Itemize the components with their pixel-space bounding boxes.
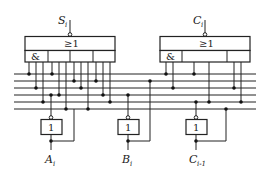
output-b-sub: i — [130, 160, 132, 168]
and-symbol: & — [166, 51, 175, 62]
output-a: A — [44, 153, 53, 166]
output-b: B — [121, 153, 130, 166]
and-symbol: & — [31, 51, 40, 62]
input-c-sub: i — [201, 21, 203, 29]
inverter-a: 1 A i — [41, 93, 74, 168]
aoi-gate-right: ≥1 & — [160, 20, 250, 104]
inverter-symbol: 1 — [125, 122, 131, 133]
output-a-sub: i — [53, 160, 55, 168]
inverter-symbol: 1 — [193, 122, 199, 133]
inverter-b: 1 B i — [118, 79, 152, 168]
or-symbol: ≥1 — [64, 38, 79, 49]
inverter-c: 1 C i-1 — [186, 100, 228, 168]
output-c-sub: i-1 — [197, 160, 206, 168]
bus-lines — [14, 74, 256, 109]
logic-diagram: ≥1 & ≥1 & — [0, 0, 267, 176]
aoi-gate-left: ≥1 & — [25, 20, 115, 111]
input-s-sub: i — [65, 21, 67, 29]
or-symbol: ≥1 — [199, 38, 214, 49]
inverter-symbol: 1 — [48, 122, 54, 133]
